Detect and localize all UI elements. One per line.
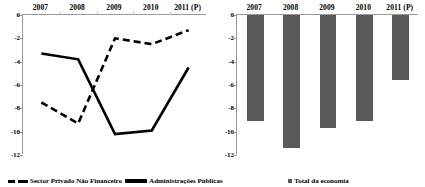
bar-2008 <box>283 15 300 148</box>
legend-label: Sector Privado Não Financeiro <box>30 177 122 185</box>
left-chart-plot-area: 0-2-4-6-8-10-12 <box>22 14 206 154</box>
legend-item: Administrações Públicas <box>125 177 223 185</box>
y-tick-mark <box>234 132 237 133</box>
year-label-2008: 2008 <box>59 3 96 12</box>
line-chart-panel: 20072008200920102011 (P) 0-2-4-6-8-10-12… <box>0 0 212 187</box>
year-label-2009: 2009 <box>309 3 345 12</box>
series-line-public-administration <box>41 54 188 135</box>
right-chart-plot-area: 0-2-4-6-8-10-12 <box>236 14 418 154</box>
year-label-2009: 2009 <box>96 3 133 12</box>
bar-chart-panel: 20072008200920102011 (P) 0-2-4-6-8-10-12… <box>212 0 425 187</box>
left-chart-series-lines <box>23 15 207 155</box>
bar-2011 <box>392 15 409 80</box>
left-chart-legend: Sector Privado Não FinanceiroAdministraç… <box>0 177 212 185</box>
y-tick-mark <box>234 38 237 39</box>
year-label-2011: 2011 (P) <box>382 3 418 12</box>
left-chart-year-axis: 20072008200920102011 (P) <box>0 0 212 15</box>
year-label-2008: 2008 <box>272 3 308 12</box>
bar-2010 <box>356 15 373 121</box>
solid-line-icon <box>125 179 147 182</box>
y-tick-mark <box>234 62 237 63</box>
year-label-2011: 2011 (P) <box>169 3 206 12</box>
y-tick-mark <box>234 108 237 109</box>
series-line-private-sector <box>41 30 188 123</box>
y-tick-mark <box>234 155 237 156</box>
legend-item: Total da economia <box>288 177 349 185</box>
square-swatch-icon <box>288 179 292 183</box>
right-chart-legend: Total da economia <box>212 177 425 185</box>
legend-item: Sector Privado Não Financeiro <box>8 177 122 185</box>
right-chart-year-axis: 20072008200920102011 (P) <box>212 0 425 15</box>
y-tick-mark <box>234 15 237 16</box>
year-label-2010: 2010 <box>132 3 169 12</box>
bar-2009 <box>320 15 337 128</box>
y-tick-mark <box>234 85 237 86</box>
year-label-2010: 2010 <box>345 3 381 12</box>
year-label-2007: 2007 <box>236 3 272 12</box>
figure-container: 20072008200920102011 (P) 0-2-4-6-8-10-12… <box>0 0 425 187</box>
legend-label: Total da economia <box>294 177 349 185</box>
year-label-2007: 2007 <box>22 3 59 12</box>
bar-2007 <box>247 15 264 121</box>
y-tick-mark <box>20 155 23 156</box>
dashed-line-icon <box>8 180 28 183</box>
